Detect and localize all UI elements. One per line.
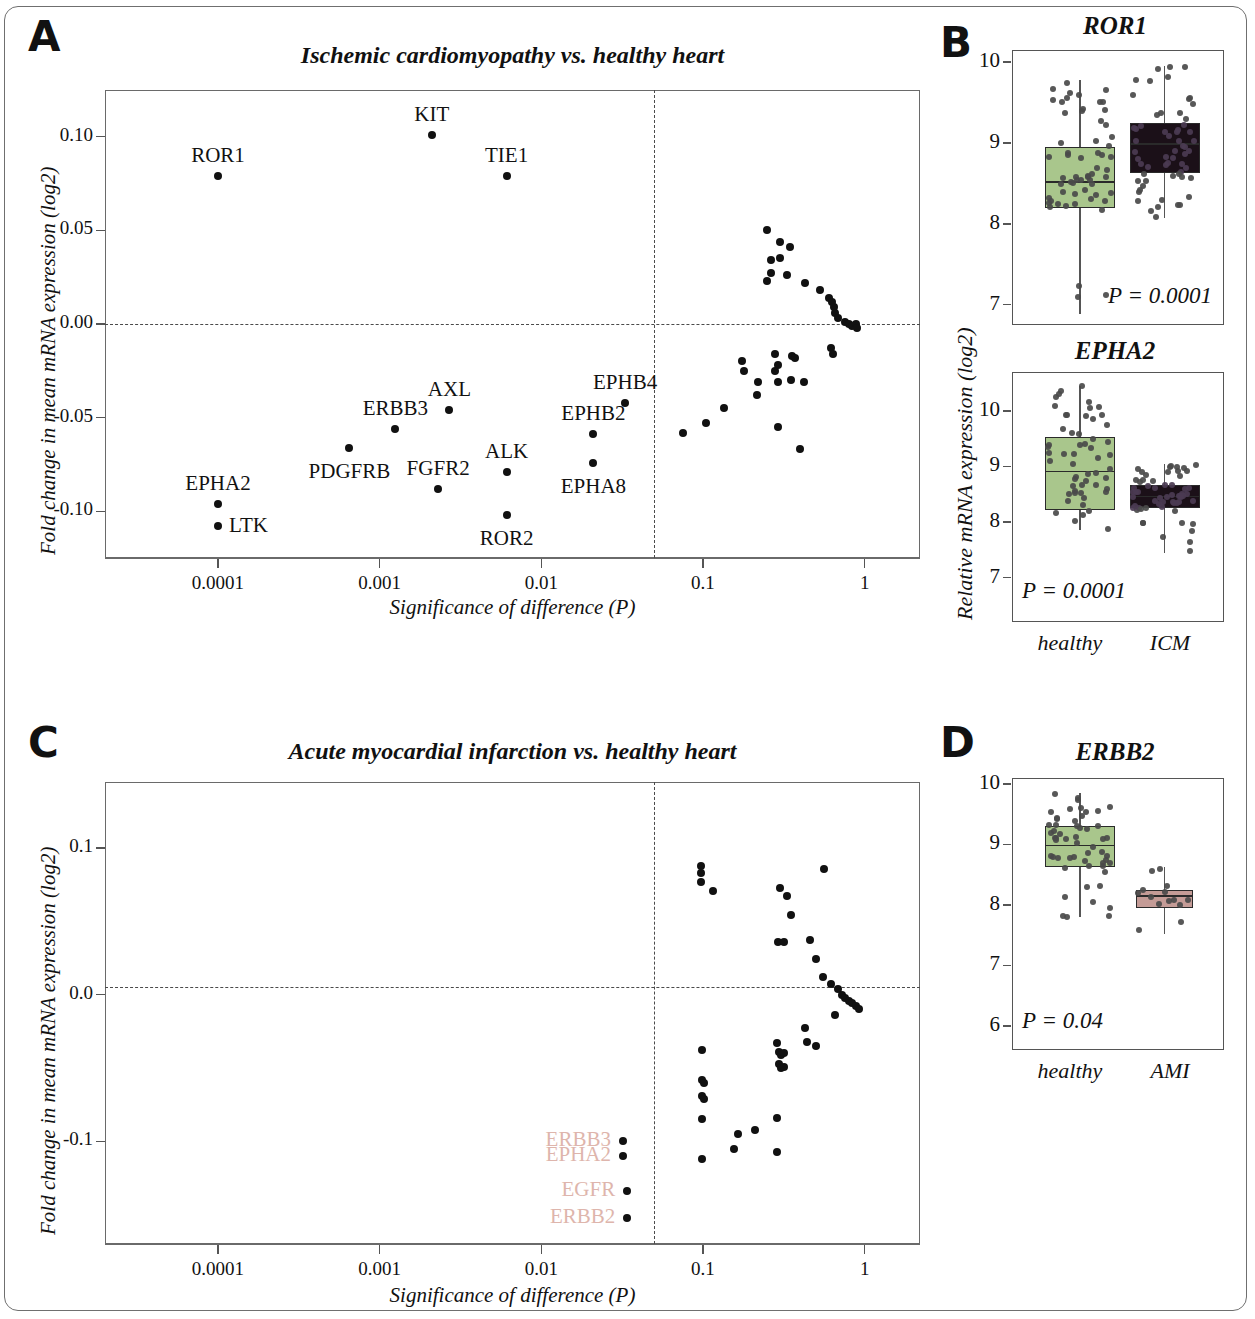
boxplot-data-point	[1135, 198, 1141, 204]
panel-a-ytick-label: 0.05	[5, 217, 93, 239]
panel-a-xtick-label: 0.01	[481, 572, 601, 594]
figure-root: A Ischemic cardiomyopathy vs. healthy he…	[0, 0, 1255, 1319]
panel-a-gene-label-ephb2: EPHB2	[523, 401, 663, 426]
panel-c-xtick-mark	[864, 1244, 865, 1254]
panel-a-gene-label-alk: ALK	[437, 439, 577, 464]
boxplot-data-point	[1095, 455, 1101, 461]
panel-letter-a: A	[28, 16, 61, 58]
boxplot-data-point	[1048, 809, 1054, 815]
boxplot-ytick-mark	[1003, 521, 1011, 522]
boxplot-ytick-label: 9	[948, 129, 1000, 154]
boxplot-data-point	[1108, 154, 1114, 160]
boxplot-ytick-label: 7	[948, 291, 1000, 316]
panel-a-xlabel: Significance of difference (P)	[105, 595, 920, 620]
panel-b-epha2-pvalue: P = 0.0001	[1022, 578, 1126, 604]
boxplot-data-point	[1160, 534, 1166, 540]
panel-c-data-point	[812, 1042, 820, 1050]
panel-a-xtick-mark	[864, 558, 865, 568]
panel-c-xtick-mark	[379, 1244, 380, 1254]
boxplot-data-point	[1102, 107, 1108, 113]
boxplot-data-point	[1155, 66, 1161, 72]
panel-c-data-point	[698, 1046, 706, 1054]
panel-d-title: ERBB2	[1010, 738, 1220, 766]
boxplot-ytick-mark	[1003, 844, 1011, 845]
panel-a-data-point-kit	[428, 131, 436, 139]
panel-letter-c: C	[28, 722, 59, 764]
boxplot-data-point	[1067, 806, 1073, 812]
panel-a-title: Ischemic cardiomyopathy vs. healthy hear…	[105, 42, 920, 69]
panel-c-gene-label-egfr: EGFR	[469, 1177, 615, 1202]
panel-a-data-point-fgfr2	[434, 485, 442, 493]
panel-a-data-point	[791, 354, 799, 362]
boxplot-data-point	[1053, 822, 1059, 828]
boxplot-data-point	[1047, 458, 1053, 464]
panel-c-data-point-epha2	[619, 1152, 627, 1160]
panel-c-data-point	[709, 887, 717, 895]
panel-a-xtick-label: 0.001	[320, 572, 440, 594]
boxplot-data-point	[1186, 148, 1192, 154]
panel-a-data-point-epha2	[214, 500, 222, 508]
panel-c-ytick-label: 0.0	[5, 982, 93, 1004]
panel-a-zero-fold-change-line	[105, 324, 920, 325]
boxplot-data-point	[1086, 863, 1092, 869]
panel-c-plot-area	[105, 782, 920, 1244]
boxplot-data-point	[1053, 510, 1059, 516]
panel-c-data-point-erbb2	[623, 1214, 631, 1222]
panel-a-ytick-label: 0.00	[5, 311, 93, 333]
panel-c-data-point	[697, 878, 705, 886]
panel-c-xtick-mark	[541, 1244, 542, 1254]
panel-a-ytick-label: -0.10	[5, 498, 93, 520]
panel-a-gene-label-epha8: EPHA8	[523, 474, 663, 499]
boxplot-data-point	[1082, 441, 1088, 447]
panel-c-data-point	[698, 1155, 706, 1163]
panel-a-xtick-mark	[379, 558, 380, 568]
boxplot-data-point	[1107, 466, 1113, 472]
panel-a-xtick-label: 1	[805, 572, 925, 594]
boxplot-data-point	[1135, 466, 1141, 472]
boxplot-ytick-label: 8	[948, 210, 1000, 235]
panel-c-xlabel: Significance of difference (P)	[105, 1283, 920, 1308]
panel-d-group-label-ami: AMI	[1122, 1058, 1218, 1084]
boxplot-data-point	[1060, 913, 1066, 919]
panel-a-data-point-ror2	[503, 511, 511, 519]
panel-a-xtick-mark	[217, 558, 218, 568]
panel-c-data-point	[819, 973, 827, 981]
panel-c-xtick-label: 0.01	[481, 1258, 601, 1280]
boxplot-data-point	[1163, 162, 1169, 168]
panel-a-ytick-mark	[96, 136, 105, 137]
boxplot-data-point	[1166, 133, 1172, 139]
panel-c-xtick-mark	[217, 1244, 218, 1254]
boxplot-data-point	[1169, 482, 1175, 488]
panel-c-data-point	[700, 1095, 708, 1103]
boxplot-ytick-mark	[1003, 577, 1011, 578]
boxplot-data-point	[1052, 791, 1058, 797]
boxplot-data-point	[1085, 850, 1091, 856]
boxplot-data-point	[1099, 207, 1105, 213]
boxplot-data-point	[1165, 74, 1171, 80]
boxplot-data-point	[1159, 197, 1165, 203]
boxplot-data-point	[1096, 404, 1102, 410]
panel-a-xtick-mark	[541, 558, 542, 568]
boxplot-data-point	[1145, 483, 1151, 489]
boxplot-data-point	[1186, 194, 1192, 200]
panel-a-ytick-mark	[96, 323, 105, 324]
boxplot-ytick-mark	[1003, 965, 1011, 966]
boxplot-data-point	[1059, 99, 1065, 105]
panel-a-data-point	[774, 423, 782, 431]
boxplot-data-point	[1076, 283, 1082, 289]
panel-a-ytick-label: -0.05	[5, 405, 93, 427]
boxplot-data-point	[1072, 476, 1078, 482]
boxplot-data-point	[1072, 488, 1078, 494]
boxplot-data-point	[1184, 491, 1190, 497]
boxplot-data-point	[1132, 149, 1138, 155]
panel-a-ytick-mark	[96, 417, 105, 418]
panel-d-group-label-healthy: healthy	[1022, 1058, 1118, 1084]
boxplot-ytick-label: 8	[948, 508, 1000, 533]
panel-a-data-point-ephb4	[621, 399, 629, 407]
boxplot-data-point	[1058, 140, 1064, 146]
panel-a-data-point	[800, 378, 808, 386]
boxplot-data-point	[1108, 190, 1114, 196]
boxplot-data-point	[1099, 849, 1105, 855]
boxplot-data-point	[1093, 138, 1099, 144]
panel-a-data-point	[776, 238, 784, 246]
